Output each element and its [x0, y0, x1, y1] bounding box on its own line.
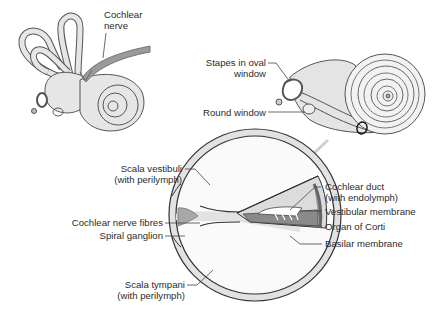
cochlear-nerve-leader	[103, 33, 106, 58]
label-cochlear-nerve: Cochlear nerve	[104, 9, 142, 31]
label-basilar-membrane: Basilar membrane	[325, 238, 403, 249]
cross-section-illustration	[169, 129, 341, 301]
label-vestibular-membrane: Vestibular membrane	[325, 206, 416, 217]
cochlea-diagram	[0, 0, 435, 317]
stapes-leader	[268, 63, 290, 82]
label-round-window: Round window	[196, 107, 266, 118]
label-stapes-oval-window: Stapes in oval window	[196, 57, 266, 79]
label-cochlear-duct: Cochlear duct (with endolymph)	[325, 181, 398, 203]
label-organ-of-corti: Organ of Corti	[325, 221, 385, 232]
label-spiral-ganglion: Spiral ganglion	[40, 230, 163, 241]
inner-ear-illustration	[22, 16, 150, 131]
label-scala-tympani: Scala tympani (with perilymph)	[90, 279, 185, 301]
label-scala-vestibuli: Scala vestibuli (with perilymph)	[90, 163, 182, 185]
label-cochlear-nerve-fibres: Cochlear nerve fibres	[40, 217, 163, 228]
uncoiled-cochlea-illustration	[276, 54, 425, 135]
